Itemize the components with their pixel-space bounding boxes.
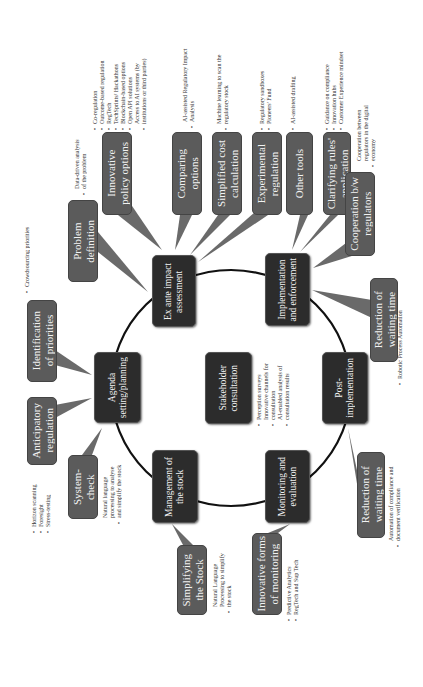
note-item: Innovative channels for consultation <box>263 348 277 426</box>
callout-label: Cooperation b/w regulators <box>348 177 373 251</box>
note-item: Customer Experience mindset <box>338 35 345 130</box>
note-item: Robotic Process Automation <box>397 280 404 385</box>
notes-comparing-options: AI-assisted Regulatory Impact Analysis <box>182 33 196 128</box>
note-item: Perception surveys <box>256 348 263 426</box>
notes-anticipatory: Horizon scanning Foresight Stress-testin… <box>31 478 52 533</box>
stage-implementation-enforcement: Implementation and enforcement <box>265 253 310 326</box>
callout-label: Innovative policy options <box>105 142 130 205</box>
notes-innovative-policy: Co-regulation Outcome-based regulation R… <box>92 35 148 130</box>
callout-label: Comparing options <box>175 149 200 199</box>
callout-identification-priorities: Identification of priorities <box>27 300 57 382</box>
callout-label: Identification of priorities <box>30 311 55 370</box>
callout-system-check: System- check <box>68 455 98 519</box>
note-item: Natural Language Processing to simplify … <box>212 548 233 613</box>
note-item: Open API solutions <box>127 35 134 130</box>
notes-stakeholder-consultation: Perception surveys Innovative channels f… <box>256 348 291 426</box>
note-item: Regulatory sandboxes <box>259 55 266 130</box>
notes-cooperation: Cooperation between regulators in the di… <box>356 92 377 167</box>
center-label: Stakeholder consultation <box>218 365 240 411</box>
note-item: AI-assisted drafting <box>290 60 297 130</box>
notes-system-check: Natural language processing to analyse a… <box>102 459 123 524</box>
note-item: Machine learning to scan the regulatory … <box>216 35 230 130</box>
stage-ex-ante-impact-assessment: Ex ante impact assessment <box>152 255 196 327</box>
callout-experimental-regulation: Experimental regulation <box>252 132 282 215</box>
notes-reduction-top: Robotic Process Automation <box>397 280 404 385</box>
callout-reduction-waiting-time-top: Reduction of waiting time <box>370 278 398 362</box>
callout-label: System- check <box>71 469 96 505</box>
stage-label: Ex ante impact assessment <box>163 263 185 320</box>
stage-label: Agenda setting/planning <box>107 357 129 418</box>
callout-problem-definition: Problem definition <box>68 200 98 282</box>
stage-label: Monitoring and evaluation <box>277 457 299 516</box>
callout-label: Other tools <box>293 149 306 198</box>
callout-cooperation-regulators: Cooperation b/w regulators <box>345 172 375 256</box>
notes-experimental-regulation: Regulatory sandboxes Pioneers' Fund <box>259 55 273 130</box>
callout-label: Anticipatory regulation <box>30 403 55 459</box>
notes-innovative-monitoring: Predictive Analytics RegTech and Sup Tec… <box>286 546 300 621</box>
stage-monitoring-evaluation: Monitoring and evaluation <box>265 450 310 523</box>
callout-label: Problem definition <box>71 220 96 263</box>
note-item: Innovation hubs <box>331 35 338 130</box>
callout-label: Innovative forms of monitoring <box>255 536 280 611</box>
note-item: Co-regulation <box>92 35 99 130</box>
callout-label: Simplifying the Stock <box>180 554 205 607</box>
note-item: AI-enabled analysis of consultation resu… <box>277 348 291 426</box>
callout-label: Reduction of waiting time <box>359 466 384 523</box>
note-item: Automation of compliance and document ve… <box>388 447 402 547</box>
note-item: Crowdsourcing priorities <box>24 218 31 293</box>
note-item: Outcome-based regulation <box>99 35 106 130</box>
callout-anticipatory-regulation: Anticipatory regulation <box>27 397 57 465</box>
stage-post-implementation: Post- implementation <box>322 352 368 424</box>
stage-management-of-stock: Management of the stock <box>152 450 198 523</box>
note-item: Horizon scanning <box>31 478 38 533</box>
notes-problem-definition: Data-driven analysis of the problem <box>74 125 88 195</box>
notes-clarifying-rules: Guidance on compliance Innovation hubs C… <box>324 35 345 130</box>
note-item: RegTech <box>106 35 113 130</box>
notes-reduction-bottom: Automation of compliance and document ve… <box>388 447 402 547</box>
callout-simplifying-stock: Simplifying the Stock <box>177 545 207 615</box>
note-item: Stress-testing <box>45 478 52 533</box>
note-item: Predictive Analytics <box>286 546 293 621</box>
note-item: AI-assisted Regulatory Impact Analysis <box>182 33 196 128</box>
note-item: RegTech and Sup Tech <box>293 546 300 621</box>
center-stakeholder-consultation: Stakeholder consultation <box>205 352 252 424</box>
notes-other-tools: AI-assisted drafting <box>290 60 297 130</box>
note-item: Access to AI systems (by institutions or… <box>134 35 148 130</box>
note-item: Foresight <box>38 478 45 533</box>
note-item: Guidance on compliance <box>324 35 331 130</box>
callout-innovative-monitoring: Innovative forms of monitoring <box>252 533 282 615</box>
note-item: Pioneers' Fund <box>266 55 273 130</box>
callout-label: Simplified cost calculation <box>215 140 240 207</box>
notes-identification-priorities: Crowdsourcing priorities <box>24 218 31 293</box>
notes-simplified-cost: Machine learning to scan the regulatory … <box>216 35 230 130</box>
note-item: Blockchain-based options <box>120 35 127 130</box>
callout-simplified-cost: Simplified cost calculation <box>212 132 242 215</box>
callout-label: Experimental regulation <box>255 144 280 203</box>
callout-reduction-waiting-time-bottom: Reduction of waiting time <box>357 452 385 538</box>
stage-label: Implementation and enforcement <box>277 258 299 322</box>
callout-other-tools: Other tools <box>286 132 313 215</box>
callout-label: Reduction of waiting time <box>372 291 397 348</box>
stage-agenda-setting: Agenda setting/planning <box>94 352 141 423</box>
stage-label: Post- implementation <box>334 358 356 418</box>
callout-innovative-policy-options: Innovative policy options <box>102 132 132 215</box>
callout-comparing-options: Comparing options <box>172 132 202 215</box>
notes-simplifying-stock: Natural Language Processing to simplify … <box>212 548 233 613</box>
note-item: Data-driven analysis of the problem <box>74 125 88 195</box>
note-item: Natural language processing to analyse a… <box>102 459 123 524</box>
note-item: TechSprints/ Hackathons <box>113 35 120 130</box>
stage-label: Management of the stock <box>164 457 186 517</box>
note-item: Cooperation between regulators in the di… <box>356 92 377 167</box>
